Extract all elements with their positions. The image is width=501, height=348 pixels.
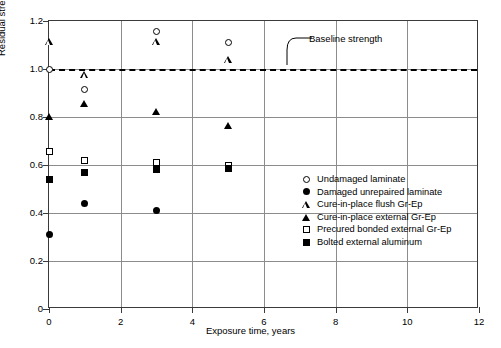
- data-point-marker: [225, 165, 232, 172]
- data-point-marker: [224, 56, 232, 63]
- legend-item-label: Undamaged laminate: [317, 173, 405, 186]
- data-point-marker: [152, 108, 160, 115]
- legend-marker-filled-circle-icon: [300, 186, 312, 198]
- legend-marker-filled-triangle-icon: [300, 211, 312, 223]
- legend-marker-open-circle-icon: [300, 173, 312, 185]
- chart-legend: Undamaged laminateDamaged unrepaired lam…: [300, 173, 451, 249]
- y-axis-tick: [43, 165, 49, 166]
- x-axis-tick: [192, 307, 193, 313]
- legend-item-label: Cure-in-place flush Gr-Ep: [317, 198, 422, 211]
- baseline-strength-line: [49, 69, 477, 71]
- data-point-marker: [81, 86, 88, 93]
- y-axis-tick-label: 0.6: [3, 160, 43, 170]
- x-axis-tick: [49, 307, 50, 313]
- data-point-marker: [153, 28, 160, 35]
- data-point-marker: [45, 38, 53, 45]
- legend-item-label: Bolted external aluminum: [317, 236, 422, 249]
- data-point-marker: [46, 148, 53, 155]
- legend-item-label: Precured bonded external Gr-Ep: [317, 223, 451, 236]
- y-axis-tick: [43, 261, 49, 262]
- data-point-marker: [81, 157, 88, 164]
- legend-marker-open-square-icon: [300, 224, 312, 236]
- plot-area: 00.20.40.60.81.01.2024681012: [48, 20, 478, 308]
- data-point-marker: [46, 176, 53, 183]
- legend-item-label: Cure-in-place external Gr-Ep: [317, 211, 436, 224]
- legend-item: Precured bonded external Gr-Ep: [300, 223, 451, 236]
- legend-marker-open-triangle-icon: [300, 198, 312, 210]
- y-axis-tick-label: 0.2: [3, 256, 43, 266]
- data-point-marker: [224, 122, 232, 129]
- legend-item: Undamaged laminate: [300, 173, 451, 186]
- legend-item: Damaged unrepaired laminate: [300, 186, 451, 199]
- data-point-marker: [81, 169, 88, 176]
- legend-item: Cure-in-place flush Gr-Ep: [300, 198, 451, 211]
- data-point-marker: [81, 200, 88, 207]
- y-axis-tick-label: 0.8: [3, 112, 43, 122]
- data-point-marker: [80, 71, 88, 78]
- y-axis-tick-label: 0.4: [3, 208, 43, 218]
- x-axis-tick: [407, 307, 408, 313]
- gridline-vertical: [407, 21, 408, 307]
- y-axis-tick-label: 1.0: [3, 64, 43, 74]
- data-point-marker: [152, 38, 160, 45]
- legend-item-label: Damaged unrepaired laminate: [317, 186, 442, 199]
- gridline-vertical: [192, 21, 193, 307]
- gridline-horizontal: [49, 261, 477, 262]
- data-point-marker: [45, 113, 53, 120]
- data-point-marker: [46, 231, 53, 238]
- data-point-marker: [225, 39, 232, 46]
- baseline-annotation-label: Baseline strength: [309, 33, 382, 44]
- y-axis-title: Residual strength / Baseline strength: [0, 0, 7, 56]
- data-point-marker: [46, 66, 53, 73]
- legend-item: Cure-in-place external Gr-Ep: [300, 211, 451, 224]
- legend-item: Bolted external aluminum: [300, 236, 451, 249]
- gridline-vertical: [264, 21, 265, 307]
- x-axis-tick: [479, 307, 480, 313]
- x-axis-tick: [121, 307, 122, 313]
- gridline-horizontal: [49, 117, 477, 118]
- y-axis-tick: [43, 21, 49, 22]
- x-axis-tick: [264, 307, 265, 313]
- data-point-marker: [80, 100, 88, 107]
- y-axis-tick-label: 1.2: [3, 16, 43, 26]
- y-axis-tick: [43, 213, 49, 214]
- x-axis-title: Exposure time, years: [0, 325, 501, 336]
- gridline-vertical: [336, 21, 337, 307]
- gridline-vertical: [121, 21, 122, 307]
- data-point-marker: [153, 159, 160, 166]
- y-axis-tick-label: 0: [3, 304, 43, 314]
- gridline-horizontal: [49, 165, 477, 166]
- legend-marker-filled-square-icon: [300, 236, 312, 248]
- data-point-marker: [153, 166, 160, 173]
- x-axis-tick: [336, 307, 337, 313]
- residual-strength-scatter-chart: 00.20.40.60.81.01.2024681012 Residual st…: [0, 0, 501, 348]
